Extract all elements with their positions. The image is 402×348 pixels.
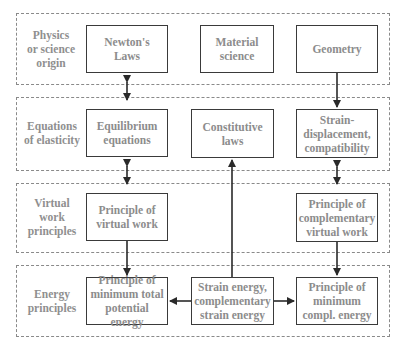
connector-arrows [0,0,402,348]
